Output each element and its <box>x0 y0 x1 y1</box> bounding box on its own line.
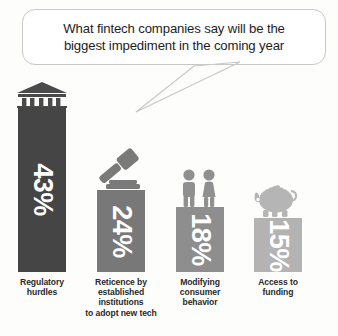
bar-group-1: 24% Reticence by established institution… <box>82 0 160 336</box>
bar-value-2: 18% <box>187 213 214 266</box>
bar-group-3: 15% Access to funding <box>239 0 317 336</box>
bar-1: 24% <box>97 190 145 272</box>
bar-chart: 43% Regulatory hurdles 24% Reticence <box>0 0 338 336</box>
piggy-bank-icon <box>239 178 317 218</box>
gavel-icon <box>82 147 160 191</box>
bar-2: 18% <box>176 207 224 272</box>
infographic-root: What fintech companies say will be the b… <box>0 0 338 336</box>
bar-group-2: 18% Modifying consumer behavior <box>161 0 239 336</box>
bar-value-0: 43% <box>29 163 56 216</box>
bar-value-3: 15% <box>265 219 292 272</box>
bank-building-icon <box>3 82 81 108</box>
bar-0: 43% <box>18 107 66 272</box>
bar-3: 15% <box>254 218 302 272</box>
bar-label-3: Access to funding <box>231 277 325 297</box>
bar-value-1: 24% <box>108 205 135 258</box>
people-icon <box>161 168 239 208</box>
bar-group-0: 43% Regulatory hurdles <box>3 0 81 336</box>
